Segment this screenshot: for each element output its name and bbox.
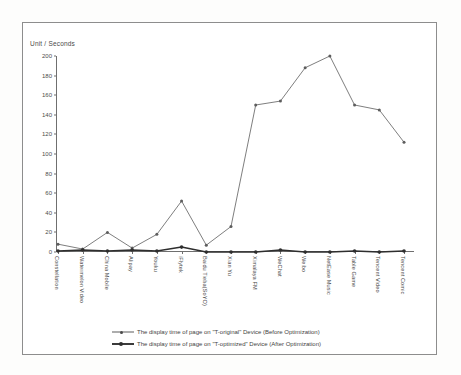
x-tick-mark-1	[83, 252, 84, 254]
data-point-before-7	[230, 225, 233, 228]
data-point-after-7	[229, 250, 233, 254]
chart-figure: Unit / Seconds 0204060801001201401601802…	[0, 0, 461, 375]
data-point-before-6	[205, 244, 208, 247]
x-axis-label-4: Youku	[153, 256, 159, 272]
x-axis-label-2: China Mobile	[104, 256, 110, 290]
y-tick-label-60: 60	[45, 190, 52, 196]
data-point-after-10	[303, 250, 307, 254]
legend-line-marker-icon	[112, 328, 134, 337]
legend-label-after: The display time of page on "T-optimized…	[137, 341, 321, 347]
data-point-after-14	[402, 249, 406, 253]
x-axis-label-12: Table Game	[351, 256, 357, 287]
x-axis-label-14: Tencent Comic	[400, 256, 406, 294]
data-point-before-8	[254, 104, 257, 107]
x-axis-label-3: Alipay	[128, 256, 134, 272]
x-tick-mark-5	[182, 252, 183, 254]
x-axis-label-6: Baidu Tieba(SoYO)	[202, 256, 208, 306]
data-point-before-5	[180, 200, 183, 203]
x-tick-mark-3	[132, 252, 133, 254]
data-point-after-12	[353, 249, 357, 253]
data-point-after-1	[81, 248, 85, 252]
data-point-before-14	[403, 141, 406, 144]
x-axis-label-1: Watermelon Video	[79, 256, 85, 303]
y-tick-label-0: 0	[49, 249, 52, 255]
data-point-after-0	[56, 249, 60, 253]
data-point-after-5	[180, 245, 184, 249]
data-point-after-2	[106, 249, 110, 253]
x-axis-label-11: NetEase Music	[326, 256, 332, 295]
data-point-before-4	[155, 233, 158, 236]
data-series-layer	[56, 56, 416, 252]
data-point-after-11	[328, 250, 332, 254]
x-axis-label-9: WeChat	[277, 256, 283, 277]
legend-item-after: The display time of page on "T-optimized…	[112, 338, 321, 350]
data-point-after-4	[155, 249, 159, 253]
data-point-after-6	[204, 250, 208, 254]
data-point-before-9	[279, 100, 282, 103]
y-tick-label-40: 40	[45, 210, 52, 216]
series-before	[57, 55, 406, 251]
legend-label-before: The display time of page on "T-original"…	[137, 329, 320, 335]
x-axis-label-13: Tencent Video	[375, 256, 381, 293]
data-point-before-12	[353, 104, 356, 107]
data-point-after-8	[254, 250, 258, 254]
data-point-after-3	[130, 248, 134, 252]
y-tick-label-200: 200	[42, 53, 52, 59]
y-tick-label-100: 100	[42, 151, 52, 157]
y-tick-label-120: 120	[42, 131, 52, 137]
series-line-before	[58, 56, 404, 249]
x-axis-label-7: Xian Yu	[227, 256, 233, 276]
data-point-before-0	[57, 243, 60, 246]
data-point-before-2	[106, 231, 109, 234]
y-tick-label-20: 20	[45, 229, 52, 235]
y-tick-label-160: 160	[42, 92, 52, 98]
plot-area: 020406080100120140160180200 Constellatio…	[56, 56, 416, 252]
data-point-before-13	[378, 108, 381, 111]
chart-legend: The display time of page on "T-original"…	[112, 326, 321, 350]
data-point-after-9	[279, 248, 283, 252]
data-point-after-13	[377, 250, 381, 254]
x-axis-label-0: Constellation	[54, 256, 60, 290]
y-tick-label-140: 140	[42, 112, 52, 118]
data-point-before-11	[328, 55, 331, 58]
y-tick-label-80: 80	[45, 171, 52, 177]
x-axis-label-5: iFlytek	[178, 256, 184, 273]
x-axis-label-10: Weibo	[301, 256, 307, 272]
legend-line-marker-bold-icon	[112, 340, 134, 349]
x-tick-mark-9	[280, 252, 281, 254]
data-point-before-10	[304, 66, 307, 69]
x-axis-label-8: Ximalaya FM	[252, 256, 258, 290]
legend-item-before: The display time of page on "T-original"…	[112, 326, 321, 338]
y-tick-label-180: 180	[42, 73, 52, 79]
y-axis-unit-label: Unit / Seconds	[30, 40, 75, 47]
